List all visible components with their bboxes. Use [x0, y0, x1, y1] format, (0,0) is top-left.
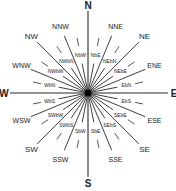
label-wsw: WSW — [13, 117, 31, 124]
tick-nbe — [97, 38, 99, 46]
compass-rose: NESWNESESWNWNNEENEESESSESSWWSWWNWNNWNbEN… — [0, 0, 176, 191]
label-nbe: NbE — [91, 52, 101, 58]
tick-swbs — [57, 133, 61, 140]
tick-nebn — [115, 46, 119, 53]
label-nw: NW — [25, 32, 39, 41]
label-w: W — [0, 88, 9, 99]
tick-ebn — [135, 82, 143, 84]
tick-wbn — [33, 82, 41, 84]
label-sse: SSE — [109, 156, 123, 163]
label-swbw: SWbW — [48, 112, 64, 118]
tick-sbw — [77, 140, 79, 148]
label-wbn: WbN — [44, 82, 56, 88]
label-n: N — [84, 0, 91, 11]
tick-nwbn — [57, 46, 61, 53]
label-sbe: SbE — [91, 128, 101, 134]
ray-se — [88, 93, 139, 144]
tick-nebe — [128, 62, 135, 66]
tick-wbs — [33, 102, 41, 104]
label-nbw: NbW — [75, 52, 86, 58]
label-nebe: NEbE — [114, 68, 128, 74]
label-sebs: SEbS — [103, 122, 116, 128]
compass-center-hub — [85, 90, 91, 96]
tick-sebs — [115, 133, 119, 140]
tick-nwbw — [41, 62, 48, 66]
tick-sebe — [128, 120, 135, 124]
label-ese: ESE — [148, 117, 162, 124]
label-sw: SW — [25, 145, 38, 154]
label-swbs: SWbS — [59, 122, 74, 128]
tick-swbw — [41, 120, 48, 124]
label-e: E — [171, 88, 176, 99]
label-ene: ENE — [147, 62, 162, 69]
label-wnw: WNW — [12, 62, 31, 69]
tick-sbe — [97, 140, 99, 148]
label-sebe: SEbE — [114, 112, 127, 118]
label-nwbn: NWbN — [59, 58, 74, 64]
label-wbs: WbS — [44, 98, 56, 104]
label-ebs: EbS — [122, 98, 132, 104]
label-nnw: NNW — [52, 23, 69, 30]
tick-ebs — [135, 102, 143, 104]
label-ebn: EbN — [121, 82, 131, 88]
label-sbw: SbW — [75, 128, 86, 134]
tick-nbw — [77, 38, 79, 46]
label-nebn: NEbN — [103, 58, 117, 64]
label-nne: NNE — [108, 23, 123, 30]
label-nwbw: NWbW — [48, 68, 64, 74]
label-ssw: SSW — [52, 156, 68, 163]
label-se: SE — [139, 145, 150, 154]
label-ne: NE — [139, 32, 150, 41]
label-s: S — [85, 178, 92, 189]
